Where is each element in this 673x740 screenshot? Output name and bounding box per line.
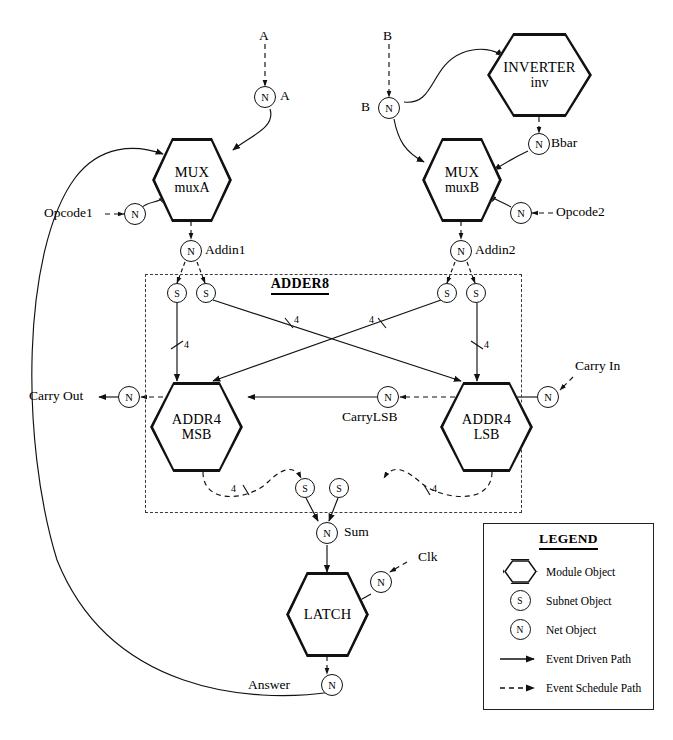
subnet-addin1-right[interactable]: S [196,283,216,303]
net-addin1[interactable]: N [180,240,202,262]
subnet-sum-left[interactable]: S [295,478,315,498]
module-addr4-lsb-instance: LSB [474,427,500,443]
module-muxA-instance: muxA [175,180,210,196]
net-circle-icon-glyph: N [517,625,524,635]
module-hexagon-icon [494,559,546,584]
net-carry-in-glyph: N [544,392,552,403]
net-addin2-glyph: N [457,246,465,257]
bus-width-lsb-right: 4 [484,339,489,350]
label-answer: Answer [248,677,290,693]
legend-title-text: LEGEND [539,531,598,550]
net-opcode2-glyph: N [517,208,525,219]
net-carry-lsb-glyph: N [384,392,392,403]
net-A-glyph: N [261,92,269,103]
label-addin1: Addin1 [205,242,246,258]
legend-item-event-schedule: Event Schedule Path [484,673,653,702]
legend-item-net-label: Net Object [546,624,596,636]
legend-item-event-driven-label: Event Driven Path [546,653,631,665]
module-addr4-msb-instance: MSB [182,427,212,443]
diagram-canvas: ADDER8 MUX muxA MUX muxB INVERTER inv AD… [0,0,673,740]
net-opcode2[interactable]: N [510,202,532,224]
legend-rows: Module Object S Subnet Object N Net Obje… [484,557,653,702]
adder8-group-title-text: ADDER8 [271,276,330,295]
label-addin2: Addin2 [475,242,516,258]
net-Bbar[interactable]: N [528,133,550,155]
net-addin1-glyph: N [187,246,195,257]
label-carry-lsb: CarryLSB [342,409,398,425]
bus-width-msb-left: 4 [184,339,189,350]
net-answer-glyph: N [328,680,336,691]
legend-item-event-driven: Event Driven Path [484,644,653,673]
legend-panel: LEGEND Module Object S [483,523,654,710]
net-sum[interactable]: N [316,522,338,544]
module-inverter-instance: inv [531,75,549,91]
net-A[interactable]: N [254,86,276,108]
label-opcode2: Opcode2 [556,204,605,220]
module-latch-type: LATCH [304,606,352,622]
net-answer[interactable]: N [321,674,343,696]
net-addin2[interactable]: N [450,240,472,262]
net-opcode1-glyph: N [131,209,139,220]
adder8-group-title: ADDER8 [225,276,375,295]
label-net-A: A [280,88,290,104]
subnet-addin1-right-glyph: S [203,288,209,299]
module-inverter-type: INVERTER [503,59,575,75]
subnet-addin2-right[interactable]: S [466,283,486,303]
subnet-addin2-left-glyph: S [444,288,450,299]
net-clk-glyph: N [377,577,385,588]
net-carry-in[interactable]: N [537,386,559,408]
net-B[interactable]: N [378,97,400,119]
legend-title: LEGEND [484,531,653,550]
label-sum: Sum [344,524,369,540]
label-carry-in: Carry In [575,358,620,374]
legend-item-subnet: S Subnet Object [484,586,653,615]
legend-item-module: Module Object [484,557,653,586]
module-muxB-instance: muxB [445,180,479,196]
net-carry-out-glyph: N [125,392,133,403]
dashed-arrow-icon [494,682,546,694]
module-muxA-type: MUX [175,164,209,180]
label-stimulus-A: A [259,28,269,44]
module-muxB-type: MUX [445,164,479,180]
bus-width-cross-2: 4 [369,314,374,325]
net-Bbar-glyph: N [535,139,543,150]
subnet-addin2-right-glyph: S [473,288,479,299]
subnet-addin1-left[interactable]: S [167,283,187,303]
net-B-glyph: N [385,103,393,114]
legend-item-event-schedule-label: Event Schedule Path [546,682,641,694]
legend-item-net: N Net Object [484,615,653,644]
subnet-sum-left-glyph: S [302,483,308,494]
net-sum-glyph: N [323,528,331,539]
label-net-B: B [361,99,370,115]
net-opcode1[interactable]: N [124,203,146,225]
bus-width-out-msb: 4 [231,483,236,494]
label-net-Bbar: Bbar [551,135,577,151]
subnet-circle-icon-glyph: S [517,596,522,606]
subnet-circle-icon: S [494,590,546,611]
module-addr4-msb-type: ADDR4 [172,411,221,427]
subnet-sum-right-glyph: S [336,483,342,494]
subnet-addin2-left[interactable]: S [437,283,457,303]
label-carry-out: Carry Out [29,388,83,404]
legend-item-subnet-label: Subnet Object [546,595,611,607]
subnet-addin1-left-glyph: S [174,288,180,299]
net-circle-icon: N [494,619,546,640]
module-addr4-lsb-type: ADDR4 [462,411,511,427]
label-clk: Clk [418,549,438,565]
legend-item-module-label: Module Object [546,566,615,578]
net-carry-lsb[interactable]: N [377,386,399,408]
solid-arrow-icon [494,653,546,665]
bus-width-cross-1: 4 [294,314,299,325]
label-stimulus-B: B [383,28,392,44]
net-clk[interactable]: N [370,571,392,593]
bus-width-out-lsb: 4 [432,483,437,494]
label-opcode1: Opcode1 [44,205,93,221]
subnet-sum-right[interactable]: S [329,478,349,498]
net-carry-out[interactable]: N [118,386,140,408]
